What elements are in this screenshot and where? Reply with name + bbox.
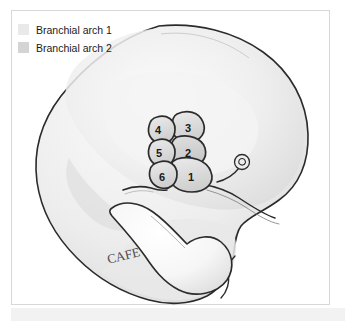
otic-placode-icon xyxy=(235,155,250,170)
legend-item-arch-2: Branchial arch 2 xyxy=(18,40,112,55)
legend-label-arch-2: Branchial arch 2 xyxy=(36,42,112,54)
legend-label-arch-1: Branchial arch 1 xyxy=(36,24,112,36)
bottom-strip xyxy=(11,308,345,321)
arch-number-6: 6 xyxy=(159,171,165,183)
legend-swatch-arch-1 xyxy=(18,24,29,35)
arch-number-4: 4 xyxy=(155,124,162,136)
arch-number-2: 2 xyxy=(185,147,191,159)
legend-item-arch-1: Branchial arch 1 xyxy=(18,22,112,37)
legend: Branchial arch 1 Branchial arch 2 xyxy=(18,22,112,58)
arch-number-3: 3 xyxy=(185,122,191,134)
arch-number-5: 5 xyxy=(156,147,162,159)
arch-number-1: 1 xyxy=(188,171,194,183)
legend-swatch-arch-2 xyxy=(18,42,29,53)
figure-root: CAFE 4 3 5 2 6 1 xyxy=(0,0,345,321)
